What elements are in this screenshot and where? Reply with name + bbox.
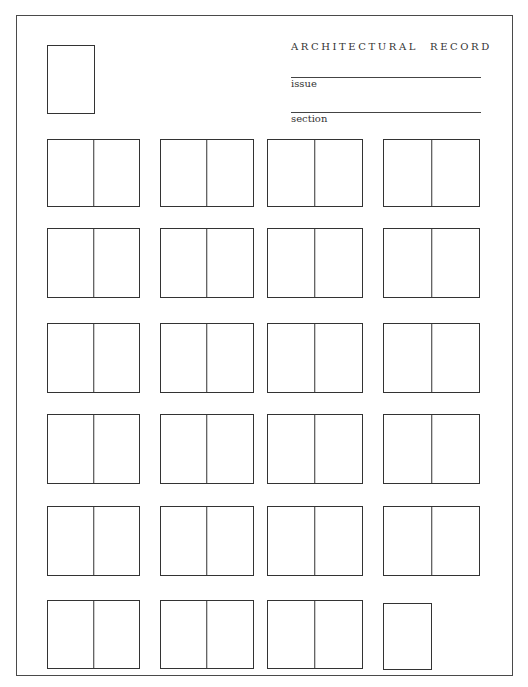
spread-gutter-line <box>206 324 207 392</box>
page-spread-box <box>47 228 140 298</box>
page-spread-box <box>47 600 140 669</box>
publication-title-word1: ARCHITECTURAL <box>291 41 418 52</box>
spread-gutter-line <box>206 507 207 575</box>
page-spread-box <box>47 139 140 207</box>
spread-gutter-line <box>314 415 315 483</box>
page-spread-box <box>267 600 363 669</box>
page-spread-box <box>267 506 363 576</box>
page-spread-box <box>160 228 254 298</box>
page-spread-box <box>160 323 254 393</box>
page-spread-box <box>47 414 140 484</box>
page-spread-box <box>383 323 480 393</box>
cover-thumbnail-box <box>47 45 95 114</box>
spread-gutter-line <box>314 324 315 392</box>
page-spread-box <box>267 228 363 298</box>
page-spread-box <box>383 414 480 484</box>
spread-gutter-line <box>431 507 432 575</box>
publication-title: ARCHITECTURAL RECORD <box>291 41 481 52</box>
publication-title-word2: RECORD <box>430 41 492 52</box>
spread-gutter-line <box>431 324 432 392</box>
page-spread-box <box>267 139 363 207</box>
spread-gutter-line <box>206 415 207 483</box>
page-spread-box <box>383 506 480 576</box>
issue-label: issue <box>291 78 317 89</box>
spread-gutter-line <box>431 229 432 297</box>
page-spread-box <box>160 600 254 669</box>
page-spread-box <box>267 323 363 393</box>
page-spread-box <box>267 414 363 484</box>
section-label: section <box>291 113 327 124</box>
spread-gutter-line <box>314 601 315 668</box>
spread-gutter-line <box>314 140 315 206</box>
single-page-box <box>383 603 432 670</box>
spread-gutter-line <box>93 507 94 575</box>
spread-gutter-line <box>314 507 315 575</box>
page-spread-box <box>160 414 254 484</box>
page-spread-box <box>383 139 480 207</box>
spread-gutter-line <box>206 229 207 297</box>
page-spread-box <box>160 506 254 576</box>
spread-gutter-line <box>314 229 315 297</box>
page-spread-box <box>47 323 140 393</box>
spread-gutter-line <box>93 601 94 668</box>
spread-gutter-line <box>93 229 94 297</box>
issue-field-line[interactable] <box>291 77 481 78</box>
spread-gutter-line <box>206 140 207 206</box>
spread-gutter-line <box>431 415 432 483</box>
page-spread-box <box>160 139 254 207</box>
page-spread-box <box>383 228 480 298</box>
spread-gutter-line <box>93 140 94 206</box>
spread-gutter-line <box>431 140 432 206</box>
spread-gutter-line <box>93 415 94 483</box>
page-spread-box <box>47 506 140 576</box>
spread-gutter-line <box>206 601 207 668</box>
spread-gutter-line <box>93 324 94 392</box>
